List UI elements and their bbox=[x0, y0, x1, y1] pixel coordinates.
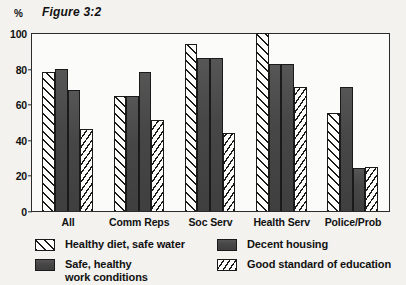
bar bbox=[365, 167, 378, 211]
legend-item-decent-housing: Decent housing bbox=[217, 238, 328, 251]
y-axis-tick-mark bbox=[28, 175, 32, 176]
bar bbox=[353, 168, 366, 211]
y-axis-tick-mark bbox=[28, 69, 32, 70]
bar bbox=[340, 87, 353, 211]
y-axis-unit-label: % bbox=[14, 8, 23, 19]
legend-item-education: Good standard of education bbox=[217, 258, 391, 271]
bar-group bbox=[185, 34, 235, 211]
bar bbox=[281, 64, 294, 211]
y-axis-tick-label: 80 bbox=[16, 64, 27, 76]
legend-label: Good standard of education bbox=[247, 258, 391, 271]
legend-swatch-solid-icon bbox=[217, 239, 237, 251]
bar bbox=[68, 90, 81, 211]
legend-label: Safe, healthy work conditions bbox=[65, 258, 148, 283]
bar bbox=[80, 129, 93, 211]
y-axis-tick-mark bbox=[28, 211, 32, 212]
bar-group bbox=[256, 34, 306, 211]
bar bbox=[42, 72, 55, 211]
bar bbox=[210, 58, 223, 211]
y-axis-tick-mark bbox=[28, 104, 32, 105]
bar bbox=[269, 64, 282, 211]
plot-area: 020406080100 bbox=[32, 34, 389, 211]
y-axis-tick-label: 100 bbox=[10, 28, 27, 40]
chart-legend: Healthy diet, safe water Safe, healthy w… bbox=[31, 238, 403, 284]
legend-label: Decent housing bbox=[247, 238, 328, 251]
bar bbox=[114, 96, 127, 211]
bar-group bbox=[327, 34, 377, 211]
legend-swatch-solid-icon bbox=[35, 259, 55, 271]
x-axis-category-label: Health Serv bbox=[253, 216, 310, 228]
y-axis-tick-mark bbox=[28, 140, 32, 141]
x-axis-category-label: Police/Prob bbox=[325, 216, 382, 228]
legend-swatch-hatch-dense-icon bbox=[217, 259, 237, 271]
plot-frame: 020406080100 bbox=[31, 33, 390, 212]
legend-item-healthy-diet: Healthy diet, safe water bbox=[35, 238, 185, 251]
bar bbox=[139, 72, 152, 211]
bar bbox=[185, 44, 198, 211]
bar-group bbox=[42, 34, 92, 211]
bar bbox=[55, 69, 68, 211]
bar bbox=[126, 96, 139, 211]
x-axis-category-label: All bbox=[61, 216, 74, 228]
y-axis-tick-label: 40 bbox=[16, 135, 27, 147]
bar bbox=[197, 58, 210, 211]
x-axis-category-label: Soc Serv bbox=[188, 216, 232, 228]
figure-title: Figure 3:2 bbox=[42, 5, 101, 19]
y-axis-tick-label: 20 bbox=[16, 170, 27, 182]
bar bbox=[256, 33, 269, 211]
x-axis-category-label: Comm Reps bbox=[109, 216, 169, 228]
legend-item-work-conditions: Safe, healthy work conditions bbox=[35, 258, 148, 283]
y-axis-tick-label: 60 bbox=[16, 99, 27, 111]
bar bbox=[327, 113, 340, 211]
bar bbox=[151, 120, 164, 211]
bar-group bbox=[114, 34, 164, 211]
y-axis-tick-label: 0 bbox=[21, 206, 27, 218]
bar bbox=[294, 87, 307, 211]
bar bbox=[223, 133, 236, 211]
chart-page: % Figure 3:2 020406080100 AllComm RepsSo… bbox=[0, 0, 406, 285]
legend-swatch-hatch-forward-icon bbox=[35, 239, 55, 251]
legend-label: Healthy diet, safe water bbox=[65, 238, 185, 251]
